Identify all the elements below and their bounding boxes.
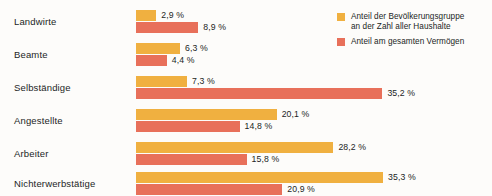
bar-value-label-5-1: 20,9 % — [287, 184, 315, 195]
bar-value-label-5-0: 35,3 % — [388, 172, 416, 183]
legend-label-line1: Anteil am gesamten Vermögen — [351, 37, 464, 46]
bar-value-label-4-1: 15,8 % — [252, 154, 280, 165]
bar-2-1 — [136, 88, 382, 99]
legend-swatch-icon — [337, 38, 345, 46]
legend-item: Anteil der Bevölkerungsgruppe an der Zah… — [337, 12, 487, 32]
bar-value-label-4-0: 28,2 % — [338, 142, 366, 153]
bar-0-0 — [136, 10, 156, 21]
bar-value-label-0-0: 2,9 % — [161, 10, 184, 21]
bar-3-0 — [136, 109, 277, 120]
bar-4-1 — [136, 154, 247, 165]
legend-swatch-icon — [337, 13, 345, 21]
bar-2-0 — [136, 76, 187, 87]
bar-value-label-2-1: 35,2 % — [387, 88, 415, 99]
bar-1-1 — [136, 55, 167, 66]
legend-label-line2: an der Zahl aller Haushalte — [351, 22, 451, 31]
category-label-4: Arbeiter — [14, 149, 48, 159]
bar-value-label-0-1: 8,9 % — [203, 22, 226, 33]
bar-chart: LandwirteBeamteSelbständigeAngestellteAr… — [0, 0, 492, 196]
bar-3-1 — [136, 121, 240, 132]
bar-5-0 — [136, 172, 383, 183]
bar-1-0 — [136, 43, 180, 54]
bar-value-label-1-1: 4,4 % — [172, 55, 195, 66]
bar-4-0 — [136, 142, 333, 153]
category-label-1: Beamte — [14, 50, 48, 60]
bar-0-1 — [136, 22, 198, 33]
bar-value-label-2-0: 7,3 % — [192, 76, 215, 87]
chart-legend: Anteil der Bevölkerungsgruppe an der Zah… — [337, 12, 487, 52]
bar-5-1 — [136, 184, 282, 195]
legend-label: Anteil der Bevölkerungsgruppe an der Zah… — [351, 12, 464, 32]
bar-value-label-3-1: 14,8 % — [245, 121, 273, 132]
category-label-3: Angestellte — [14, 116, 63, 126]
bar-value-label-3-0: 20,1 % — [282, 109, 310, 120]
legend-label: Anteil am gesamten Vermögen — [351, 37, 464, 47]
legend-item: Anteil am gesamten Vermögen — [337, 37, 487, 47]
legend-label-line1: Anteil der Bevölkerungsgruppe — [351, 12, 464, 21]
category-label-5: Nichterwerbstätige — [14, 179, 95, 189]
category-label-2: Selbständige — [14, 83, 71, 93]
bar-value-label-1-0: 6,3 % — [185, 43, 208, 54]
category-label-0: Landwirte — [14, 17, 57, 27]
